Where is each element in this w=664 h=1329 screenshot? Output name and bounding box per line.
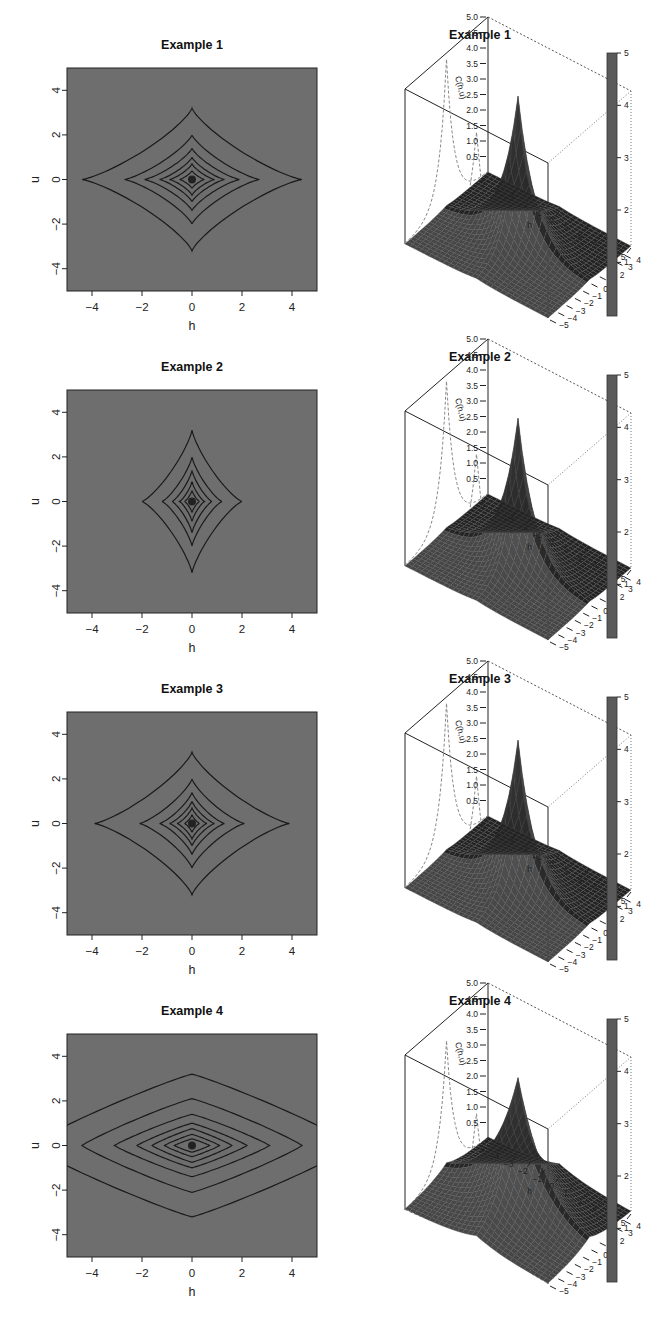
h-tick-label: 3 — [592, 1203, 597, 1213]
colorbar-tick-label: 5 — [624, 1014, 629, 1024]
z-tick-label: 3.0 — [466, 1040, 478, 1050]
colorbar-tick-label: 4 — [624, 1066, 629, 1076]
h-tick-label: −2 — [518, 1166, 528, 1176]
h-tick-label: 0 — [549, 1181, 554, 1191]
u-tick-label: −3 — [576, 1272, 586, 1282]
h-tick-label: 1 — [563, 1188, 568, 1198]
z-tick-label: 3.5 — [466, 1025, 478, 1035]
z-tick-label: 1.5 — [466, 1087, 478, 1097]
h-tick-label: −1 — [532, 1174, 542, 1184]
h-tick-label: −3 — [504, 1159, 514, 1169]
u-tick-label: −5 — [559, 1286, 569, 1296]
h-tick-label: 2 — [578, 1196, 583, 1206]
colorbar-tick-label: 1 — [624, 1223, 629, 1233]
z-tick-label: 4.5 — [466, 994, 478, 1004]
h-tick-label: −4 — [489, 1151, 499, 1161]
u-tick-label: 4 — [636, 1221, 641, 1231]
colorbar-tick-label: 3 — [624, 1119, 629, 1129]
u-tick-label: −2 — [584, 1264, 594, 1274]
z-tick-label: 5.0 — [466, 978, 478, 988]
z-tick-label: 1.0 — [466, 1102, 478, 1112]
colorbar-tick-label: 2 — [624, 1171, 629, 1181]
colorbar — [607, 1019, 617, 1282]
z-tick-label: 0.5 — [466, 1118, 478, 1128]
u-tick-label: −1 — [592, 1257, 602, 1267]
h-axis-label: h — [527, 1186, 532, 1196]
u-tick-label: 2 — [620, 1236, 625, 1246]
z-tick-label: 4.0 — [466, 1009, 478, 1019]
z-tick-label: 2.0 — [466, 1071, 478, 1081]
h-tick-label: −5 — [475, 1144, 485, 1154]
u-tick-label: −4 — [567, 1279, 577, 1289]
u-tick-label: 3 — [628, 1228, 633, 1238]
